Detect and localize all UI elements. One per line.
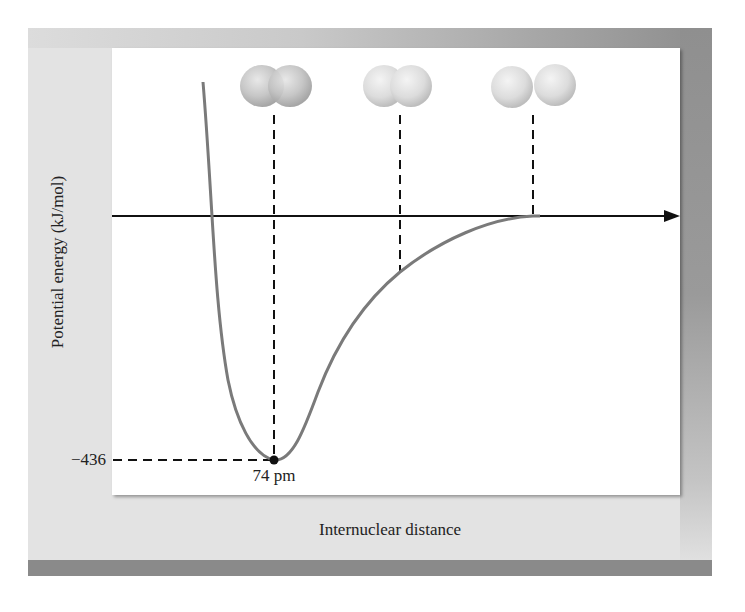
x-axis-label: Internuclear distance [319,520,461,540]
molecule-approaching-icon [363,65,432,107]
potential-energy-curve [203,82,540,460]
axis-arrow-icon [664,210,680,222]
minimum-point [270,456,279,465]
molecule-bonded-icon [240,65,312,107]
y-tick-min-energy: −436 [40,450,106,470]
y-axis-label: Potential energy (kJ/mol) [48,176,68,349]
molecule-separated-icon [491,64,576,108]
x-tick-bond-length: 74 pm [253,466,296,486]
